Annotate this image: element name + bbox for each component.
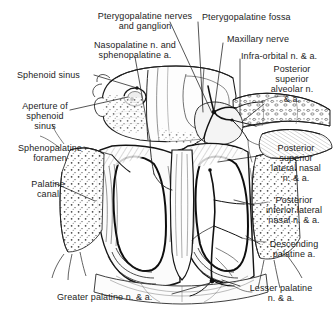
label-sphenopalatine-foramen: Sphenopalatine foramen (12, 143, 88, 163)
anatomical-figure: Pterygopalatine nerves and ganglionPtery… (0, 0, 334, 313)
label-maxillary-nerve: Maxillary nerve (227, 34, 307, 44)
label-aperture-of-sphenoid-sinus: Aperture of sphenoid sinus (13, 101, 77, 131)
label-posterior-inferior-lateral-nasal: Posterior inferior lateral nasal n. & a. (258, 195, 330, 225)
label-pterygopalatine-nerves-ganglion: Pterygopalatine nerves and ganglion (86, 11, 204, 31)
label-posterior-superior-lateral-nasal: Posterior superior lateral nasal n. & a. (262, 143, 330, 183)
label-greater-palatine: Greater palatine n. & a. (57, 292, 171, 302)
label-posterior-superior-alveolar: Posterior superior alveolar n. & a. (258, 64, 326, 104)
label-pterygopalatine-fossa: Pterygopalatine fossa (202, 12, 302, 22)
label-nasopalatine-sphenopalatine: Nasopalatine n. and sphenopalatine a. (80, 40, 190, 60)
label-sphenoid-sinus: Sphenoid sinus (17, 70, 91, 80)
label-palatine-canal: Palatine canal (22, 179, 74, 199)
label-descending-palatine: Descending palatine a. (262, 239, 326, 259)
label-infra-orbital: Infra-orbital n. & a. (241, 51, 331, 61)
label-lesser-palatine: Lesser palatine n. & a. (241, 283, 321, 303)
